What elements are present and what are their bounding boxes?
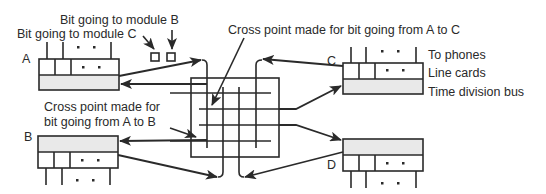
- pointer-cross-a-to-b: [170, 128, 196, 137]
- arrow-matrix-to-c: [279, 86, 341, 109]
- module-c-phone-lines: [351, 47, 416, 63]
- switch-diagram: A B C: [0, 0, 546, 194]
- label-time-division-bus: Time division bus: [428, 85, 524, 99]
- label-bit-to-c: Bit going to module C: [17, 27, 137, 41]
- bit-indicators: [143, 30, 175, 61]
- module-d-bus: [343, 139, 423, 155]
- label-to-phones: To phones: [428, 48, 486, 62]
- module-c: C: [327, 47, 423, 94]
- label-bit-to-b: Bit going to module B: [60, 13, 179, 27]
- module-b-phone-lines: [46, 168, 110, 185]
- module-b-label: B: [24, 130, 32, 144]
- bit-square-c: [151, 53, 159, 61]
- bit-square-b: [167, 53, 175, 61]
- module-d: D: [327, 139, 423, 188]
- module-a-phone-lines: [47, 42, 111, 59]
- arrow-matrix-to-b: [120, 140, 207, 141]
- label-cross-a-to-b-2: bit going from A to B: [44, 115, 156, 129]
- arrow-matrix-to-d: [279, 125, 341, 140]
- module-b-bus: [38, 136, 118, 152]
- label-line-cards: Line cards: [428, 66, 486, 80]
- label-cross-a-to-b-1: Cross point made for: [44, 100, 160, 114]
- module-a-label: A: [22, 52, 31, 66]
- crosspoint-matrix: [170, 60, 296, 177]
- module-b: B: [24, 130, 118, 185]
- matrix-frame: [191, 78, 279, 157]
- module-d-label: D: [327, 158, 336, 172]
- module-a: A: [22, 42, 119, 90]
- module-a-bus: [39, 75, 119, 90]
- label-cross-a-to-c: Cross point made for bit going from A to…: [228, 23, 460, 37]
- arrow-a-to-matrix: [119, 60, 201, 76]
- module-c-bus: [343, 79, 423, 94]
- arrow-b-to-matrix: [118, 155, 217, 177]
- module-d-phone-lines: [351, 171, 416, 188]
